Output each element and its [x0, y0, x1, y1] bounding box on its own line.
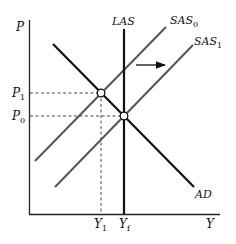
p0-label: P0 — [11, 109, 25, 125]
y-axis-label: P — [15, 20, 25, 34]
y1-label: Y1 — [94, 217, 107, 233]
ad-label: AD — [194, 188, 212, 201]
equilibrium-point-0 — [120, 112, 128, 120]
sas1-label: SAS1 — [194, 35, 222, 50]
las-label: LAS — [111, 15, 135, 28]
ad-as-diagram: P Y LAS SAS0 SAS1 AD P1 P0 Y1 Yf — [0, 0, 236, 244]
x-axis-label: Y — [206, 217, 215, 231]
equilibrium-point-1 — [97, 89, 105, 97]
p1-label: P1 — [11, 86, 25, 102]
yf-label: Yf — [119, 217, 131, 233]
sas0-label: SAS0 — [170, 14, 198, 29]
